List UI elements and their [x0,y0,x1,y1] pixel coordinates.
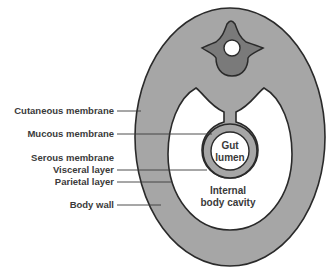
label-mucous-membrane: Mucous membrane [27,128,114,139]
label-serous-membrane: Serous membrane [31,152,114,163]
label-cutaneous-membrane: Cutaneous membrane [14,105,114,116]
label-body-cavity: body cavity [200,197,255,208]
label-parietal-layer: Parietal layer [55,176,114,187]
label-gut: Gut [221,140,239,151]
label-visceral-layer: Visceral layer [53,164,114,175]
spinal-canal [224,40,240,56]
label-body-wall: Body wall [70,199,114,210]
body-cavity-diagram: Cutaneous membrane Mucous membrane Serou… [0,0,334,270]
gut-lumen [211,132,249,170]
label-lumen: lumen [215,152,244,163]
label-internal: Internal [210,185,246,196]
